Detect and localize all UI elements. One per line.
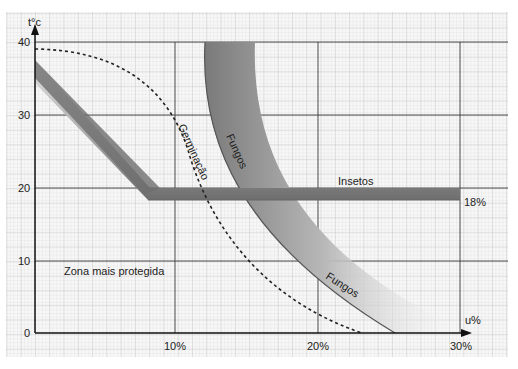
zona-label: Zona mais protegida bbox=[64, 265, 165, 277]
x-tick-30: 30% bbox=[450, 340, 472, 352]
pct18-label: 18% bbox=[464, 196, 486, 208]
insetos-label: Insetos bbox=[338, 175, 374, 187]
x-axis-label: u% bbox=[465, 314, 481, 326]
y-tick-0: 0 bbox=[24, 327, 30, 339]
chart: 40 30 20 10 0 10% 20% 30% t°c u% Zona ma… bbox=[0, 0, 518, 369]
y-axis-label: t°c bbox=[28, 16, 41, 28]
x-tick-10: 10% bbox=[164, 340, 186, 352]
x-tick-20: 20% bbox=[307, 340, 329, 352]
y-tick-30: 30 bbox=[18, 109, 30, 121]
y-tick-10: 10 bbox=[18, 255, 30, 267]
y-tick-20: 20 bbox=[18, 182, 30, 194]
y-tick-40: 40 bbox=[18, 36, 30, 48]
